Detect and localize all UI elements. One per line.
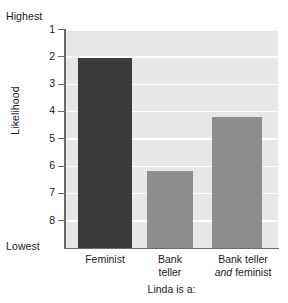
bar-feminist [78, 58, 132, 248]
y-tick-mark-5 [58, 138, 64, 139]
y-tick-mark-2 [58, 56, 64, 57]
x-category-label-conjunction-rest: feminist [232, 266, 271, 278]
x-category-label-feminist: Feminist [68, 253, 142, 266]
y-tick-mark-7 [58, 193, 64, 194]
x-axis-title: Linda is a: [65, 283, 278, 295]
y-tick-label-8: 8 [15, 215, 55, 226]
plot-area [65, 29, 278, 248]
x-category-label-conjunction-and: and [215, 266, 233, 278]
y-tick-label-7: 7 [15, 187, 55, 198]
gridline-1 [65, 29, 278, 31]
y-tick-label-6: 6 [15, 160, 55, 171]
x-category-label-conjunction: Bank teller and feminist [199, 253, 287, 278]
x-category-label-feminist-line1: Feminist [85, 253, 125, 265]
x-category-label-conjunction-line1: Bank teller [218, 253, 268, 265]
bar-bank-teller-and-feminist [212, 117, 262, 248]
y-tick-mark-4 [58, 111, 64, 112]
y-tick-label-3: 3 [15, 78, 55, 89]
x-category-label-bank-teller: Bank teller [137, 253, 203, 278]
y-axis-highest-label: Highest [6, 11, 42, 22]
y-tick-mark-6 [58, 166, 64, 167]
y-tick-label-4: 4 [15, 105, 55, 116]
y-tick-label-2: 2 [15, 51, 55, 62]
y-tick-mark-3 [58, 84, 64, 85]
y-tick-mark-8 [58, 220, 64, 221]
x-category-label-bank-teller-line2: teller [159, 266, 182, 278]
y-tick-mark-1 [58, 29, 64, 30]
y-axis-line [64, 29, 66, 249]
y-axis-lowest-label: Lowest [6, 241, 40, 252]
x-axis-line [64, 248, 279, 250]
bar-bank-teller [147, 171, 193, 248]
y-tick-label-5: 5 [15, 133, 55, 144]
x-category-label-bank-teller-line1: Bank [158, 253, 182, 265]
bar-chart: Highest Lowest Likelihood 1 2 3 4 5 6 7 … [0, 0, 288, 303]
y-tick-label-1: 1 [15, 24, 55, 35]
